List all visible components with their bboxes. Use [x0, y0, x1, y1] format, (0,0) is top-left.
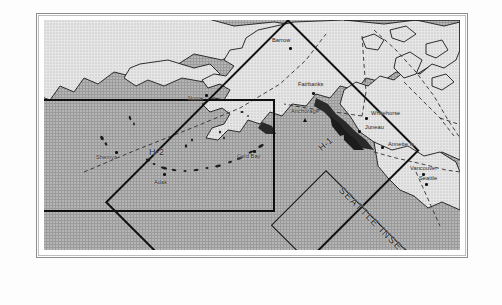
- map-plate: Barrow Nome Fairbanks Anchorage Whitehor…: [44, 20, 460, 250]
- city-label-adak: Adak: [154, 180, 167, 186]
- city-label-whitehorse: Whitehorse: [371, 111, 400, 117]
- city-label-seattle: Seattle: [419, 176, 437, 182]
- city-marker-juneau[interactable]: [358, 130, 361, 133]
- city-marker-whitehorse[interactable]: [365, 117, 368, 120]
- city-label-vancouver: Vancouver: [410, 166, 437, 172]
- city-marker-nome[interactable]: [205, 94, 208, 97]
- city-marker-annette[interactable]: [381, 146, 384, 149]
- city-marker-barrow[interactable]: [289, 47, 292, 50]
- city-marker-anchorage[interactable]: [303, 118, 307, 122]
- city-label-fairbanks: Fairbanks: [298, 82, 323, 88]
- city-label-shemya: Shemya: [96, 155, 117, 161]
- city-marker-fairbanks[interactable]: [312, 92, 315, 95]
- city-marker-adak[interactable]: [163, 173, 166, 176]
- city-label-annette: Annette Is.: [388, 142, 416, 148]
- city-label-anchorage: Anchorage: [291, 109, 319, 115]
- city-label-coldbay: Cold Bay: [237, 154, 261, 160]
- city-marker-seattle[interactable]: [425, 183, 428, 186]
- city-label-barrow: Barrow: [272, 38, 290, 44]
- map-figure-page: Barrow Nome Fairbanks Anchorage Whitehor…: [0, 0, 502, 305]
- survey-label-h2: H-2: [149, 148, 164, 157]
- city-label-juneau: Juneau: [365, 125, 384, 131]
- city-label-nome: Nome: [188, 96, 203, 102]
